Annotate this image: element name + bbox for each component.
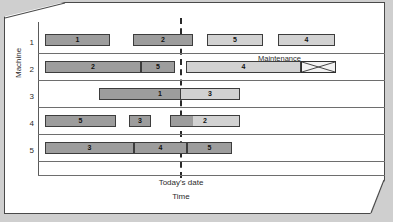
y-tick-machine-2: 2 — [20, 65, 34, 74]
machine-2-baseline — [38, 80, 385, 81]
y-tick-machine-5: 5 — [20, 146, 34, 155]
task-bar[interactable]: 4 — [278, 34, 335, 46]
gantt-chart: Machine 1 1 2 5 4 2 Maintenance 2 5 4 3 … — [0, 0, 393, 222]
task-bar[interactable]: 5 — [45, 115, 116, 127]
machine-5-baseline — [38, 161, 385, 162]
figure-page: Machine 1 1 2 5 4 2 Maintenance 2 5 4 3 … — [0, 0, 393, 222]
task-bar[interactable]: 3 — [180, 88, 240, 100]
y-tick-machine-3: 3 — [20, 92, 34, 101]
task-bar[interactable]: 5 — [141, 61, 175, 73]
task-bar[interactable]: 4 — [134, 142, 187, 154]
task-bar[interactable]: 3 — [129, 115, 151, 127]
task-bar[interactable]: 2 — [133, 34, 193, 46]
task-bar[interactable]: 2 — [45, 61, 141, 73]
x-axis-title: Time — [151, 192, 211, 201]
task-bar[interactable]: 3 — [45, 142, 134, 154]
task-bar[interactable]: 2 — [170, 115, 240, 127]
task-bar[interactable]: 1 — [45, 34, 110, 46]
cross-hatch-icon — [302, 62, 335, 72]
y-tick-machine-1: 1 — [20, 38, 34, 47]
y-axis-line — [38, 22, 39, 175]
y-tick-machine-4: 4 — [20, 119, 34, 128]
machine-1-baseline — [38, 53, 385, 54]
today-date-label: Today's date — [141, 178, 221, 187]
task-bar[interactable]: 5 — [187, 142, 232, 154]
task-bar[interactable]: 4 — [186, 61, 301, 73]
machine-3-baseline — [38, 107, 385, 108]
machine-4-baseline — [38, 134, 385, 135]
maintenance-block[interactable] — [301, 61, 336, 73]
task-bar[interactable]: 5 — [207, 34, 263, 46]
x-axis-line — [38, 175, 385, 176]
